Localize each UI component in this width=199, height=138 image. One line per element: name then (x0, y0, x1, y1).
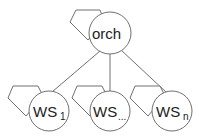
node-subscript: ... (118, 111, 126, 122)
node-label: WS (33, 103, 57, 120)
node-subscript: n (183, 111, 189, 122)
ws1-node: WS 1 (8, 86, 69, 131)
node-label: orch (92, 25, 121, 42)
node-label: WS (93, 103, 117, 120)
node-subscript: 1 (60, 111, 66, 122)
wsn-node: WS n (130, 86, 192, 131)
tree-diagram: orch WS 1 WS ... WS n (0, 0, 199, 138)
node-label: WS (156, 103, 180, 120)
ws-mid-node: WS ... (72, 86, 130, 131)
orch-node: orch (70, 10, 131, 54)
